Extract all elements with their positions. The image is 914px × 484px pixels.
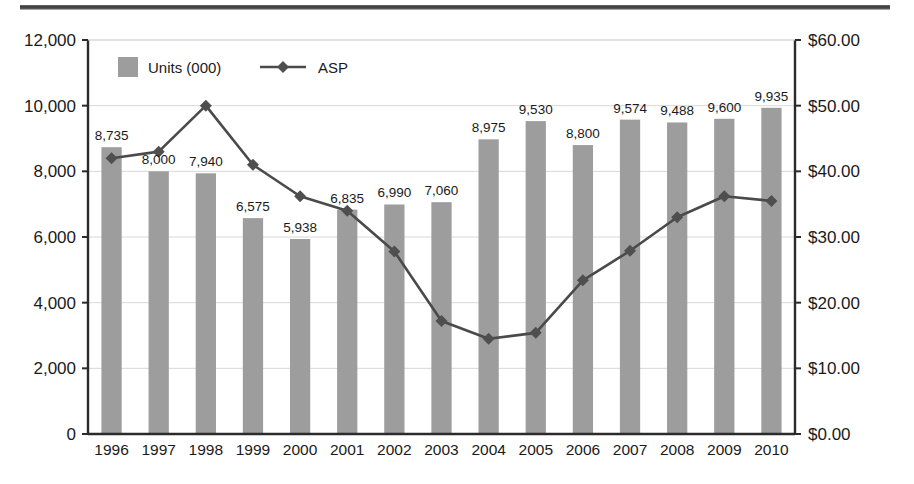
legend-swatch-units [118, 57, 138, 77]
legend-label-asp: ASP [318, 59, 348, 76]
right-axis-ticks: $0.00$10.00$20.00$30.00$40.00$50.00$60.0… [795, 31, 860, 444]
left-tick-label: 12,000 [24, 31, 76, 50]
bar-value-label-2007: 9,574 [613, 101, 647, 116]
bar-2005 [526, 121, 546, 434]
right-tick-label: $10.00 [808, 359, 860, 378]
bar-1997 [149, 171, 169, 434]
category-label-2006: 2006 [566, 441, 600, 458]
chart-legend: Units (000)ASP [118, 57, 348, 77]
legend-label-units: Units (000) [148, 59, 221, 76]
bar-2010 [761, 108, 781, 434]
left-tick-label: 6,000 [33, 228, 76, 247]
chart-page: 8,7358,0007,9406,5755,9386,8356,9907,060… [0, 0, 914, 484]
bar-2004 [478, 139, 498, 434]
category-label-2001: 2001 [330, 441, 364, 458]
bar-1999 [243, 218, 263, 434]
bar-value-label-2010: 9,935 [755, 89, 789, 104]
right-tick-label: $60.00 [808, 31, 860, 50]
bar-1998 [196, 173, 216, 434]
left-tick-label: 8,000 [33, 162, 76, 181]
bar-value-label-2003: 7,060 [425, 183, 459, 198]
right-tick-label: $0.00 [808, 425, 851, 444]
right-tick-label: $20.00 [808, 294, 860, 313]
bar-value-label-2006: 8,800 [566, 126, 600, 141]
bar-value-label-2005: 9,530 [519, 102, 553, 117]
left-tick-label: 10,000 [24, 97, 76, 116]
category-label-2003: 2003 [424, 441, 458, 458]
bar-2001 [337, 210, 357, 434]
bar-value-label-1997: 8,000 [142, 152, 176, 167]
left-tick-label: 2,000 [33, 359, 76, 378]
right-tick-label: $50.00 [808, 97, 860, 116]
bar-value-label-2009: 9,600 [707, 100, 741, 115]
category-label-1996: 1996 [94, 441, 128, 458]
bar-value-label-1998: 7,940 [189, 154, 223, 169]
category-ticks: 1996199719981999200020012002200320042005… [94, 441, 789, 458]
bar-2009 [714, 119, 734, 434]
legend-marker-asp [277, 61, 289, 73]
category-label-1999: 1999 [236, 441, 270, 458]
category-label-2008: 2008 [660, 441, 694, 458]
chart-canvas: 8,7358,0007,9406,5755,9386,8356,9907,060… [0, 0, 914, 484]
bar-2008 [667, 122, 687, 434]
left-axis-ticks: 02,0004,0006,0008,00010,00012,000 [24, 31, 88, 444]
left-tick-label: 0 [67, 425, 76, 444]
bar-value-label-1996: 8,735 [95, 128, 129, 143]
bar-value-label-2002: 6,990 [377, 185, 411, 200]
bar-value-label-1999: 6,575 [236, 199, 270, 214]
category-label-1997: 1997 [141, 441, 175, 458]
category-label-2010: 2010 [754, 441, 789, 458]
category-label-2004: 2004 [471, 441, 506, 458]
bar-2002 [384, 204, 404, 434]
bar-value-label-2000: 5,938 [283, 220, 317, 235]
category-label-1998: 1998 [189, 441, 223, 458]
bar-2000 [290, 239, 310, 434]
right-tick-label: $40.00 [808, 162, 860, 181]
category-label-2007: 2007 [613, 441, 647, 458]
combo-chart: 8,7358,0007,9406,5755,9386,8356,9907,060… [0, 0, 914, 484]
category-label-2009: 2009 [707, 441, 741, 458]
bar-value-label-2004: 8,975 [472, 120, 506, 135]
left-tick-label: 4,000 [33, 294, 76, 313]
category-label-2005: 2005 [519, 441, 553, 458]
category-label-2002: 2002 [377, 441, 411, 458]
bar-1996 [101, 147, 121, 434]
bar-value-label-2001: 6,835 [330, 191, 364, 206]
category-label-2000: 2000 [283, 441, 318, 458]
bar-value-label-2008: 9,488 [660, 103, 694, 118]
bar-2007 [620, 120, 640, 434]
right-tick-label: $30.00 [808, 228, 860, 247]
